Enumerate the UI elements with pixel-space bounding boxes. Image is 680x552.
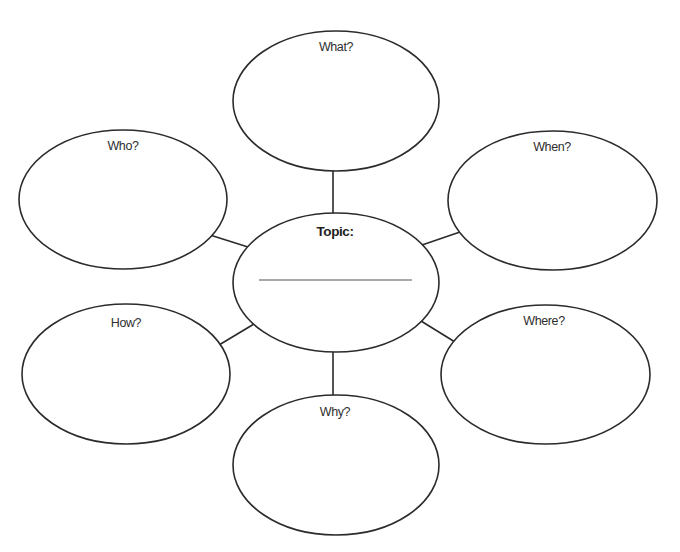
node-when[interactable]: When? bbox=[448, 131, 657, 270]
connector-how bbox=[219, 324, 254, 345]
node-why-label: Why? bbox=[320, 405, 351, 419]
five-w-concept-web: What? Who? When? How? Where? Why? Topic: bbox=[0, 0, 680, 552]
connector-when bbox=[422, 232, 460, 245]
node-why[interactable]: Why? bbox=[233, 395, 439, 535]
node-where[interactable]: Where? bbox=[441, 305, 650, 444]
node-how-label: How? bbox=[111, 316, 142, 330]
node-topic[interactable]: Topic: bbox=[233, 213, 439, 352]
node-when-label: When? bbox=[533, 140, 571, 154]
node-what-label: What? bbox=[319, 40, 354, 54]
node-who-label: Who? bbox=[107, 139, 139, 153]
topic-label: Topic: bbox=[316, 224, 353, 239]
node-how[interactable]: How? bbox=[22, 304, 230, 444]
connector-where bbox=[421, 321, 455, 342]
node-where-label: Where? bbox=[523, 314, 565, 328]
connector-who bbox=[210, 235, 248, 247]
node-what[interactable]: What? bbox=[233, 31, 439, 171]
node-who[interactable]: Who? bbox=[19, 130, 227, 269]
